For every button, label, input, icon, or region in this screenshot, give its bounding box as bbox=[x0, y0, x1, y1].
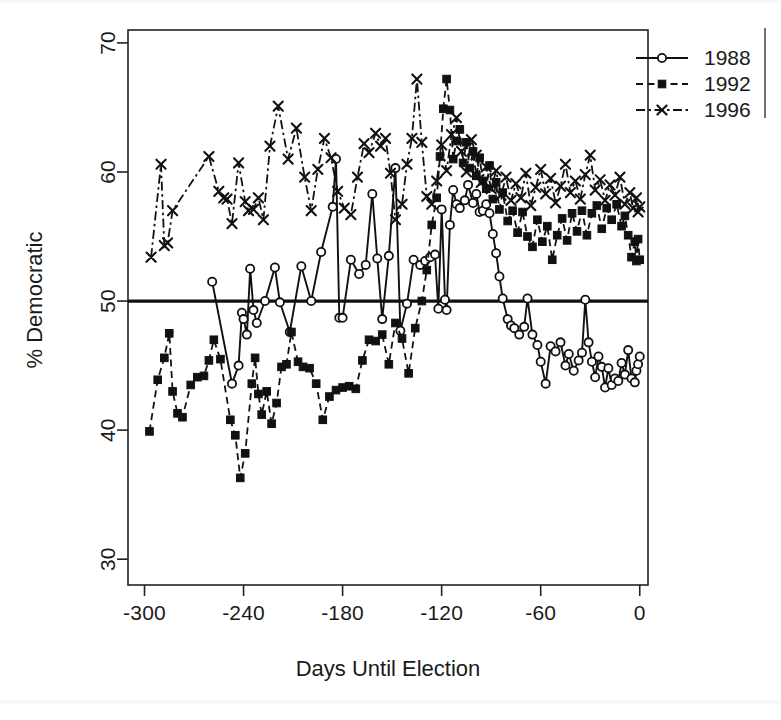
data-point-1992-68 bbox=[496, 206, 504, 214]
data-point-1992-80 bbox=[553, 231, 561, 239]
data-point-1992-43 bbox=[398, 335, 406, 343]
data-point-1992-45 bbox=[411, 324, 419, 332]
data-point-1992-75 bbox=[529, 243, 537, 251]
data-point-1988-42 bbox=[456, 204, 464, 212]
x-tick-label-0: 0 bbox=[634, 601, 646, 624]
data-point-1992-10 bbox=[205, 357, 213, 365]
data-point-1992-44 bbox=[405, 370, 413, 378]
data-point-1988-88 bbox=[631, 378, 639, 386]
x-tick-label--240: -240 bbox=[222, 601, 265, 624]
poll-trend-chart: 3040506070 -300-240-180-120-600 19881992… bbox=[0, 0, 781, 720]
data-point-1988-34 bbox=[431, 250, 439, 258]
y-tick-label-40: 40 bbox=[97, 418, 120, 442]
data-point-1988-50 bbox=[485, 209, 493, 217]
data-point-1988-7 bbox=[249, 306, 257, 314]
data-point-1992-91 bbox=[608, 216, 616, 224]
data-point-1988-80 bbox=[604, 364, 612, 372]
data-point-1988-39 bbox=[446, 221, 454, 229]
data-point-1992-16 bbox=[241, 450, 249, 458]
x-axis-title: Days Until Election bbox=[296, 656, 481, 681]
data-point-1988-37 bbox=[441, 296, 449, 304]
data-point-1988-13 bbox=[297, 262, 305, 270]
legend-marker-1992 bbox=[658, 80, 666, 88]
data-point-1992-20 bbox=[258, 411, 266, 419]
data-point-1988-84 bbox=[617, 359, 625, 367]
y-tick-label-70: 70 bbox=[97, 31, 120, 55]
data-point-1992-76 bbox=[534, 216, 542, 224]
data-point-1992-9 bbox=[200, 372, 208, 380]
data-point-1992-40 bbox=[378, 331, 386, 339]
data-point-1988-14 bbox=[307, 297, 315, 305]
data-point-1988-69 bbox=[565, 350, 573, 358]
data-point-1988-70 bbox=[570, 367, 578, 375]
data-point-1988-60 bbox=[523, 294, 531, 302]
legend-marker-1988 bbox=[658, 54, 666, 62]
data-point-1992-42 bbox=[392, 319, 400, 327]
data-point-1992-22 bbox=[268, 420, 276, 428]
data-point-1988-90 bbox=[634, 360, 642, 368]
data-point-1988-40 bbox=[449, 186, 457, 194]
data-point-1992-30 bbox=[312, 380, 320, 388]
data-point-1988-43 bbox=[461, 196, 469, 204]
data-point-1992-29 bbox=[306, 364, 314, 372]
data-point-1988-77 bbox=[594, 352, 602, 360]
data-point-1992-83 bbox=[568, 209, 576, 217]
data-point-1988-67 bbox=[556, 338, 564, 346]
legend-label-1992: 1992 bbox=[704, 72, 751, 95]
data-point-1988-36 bbox=[438, 205, 446, 213]
legend-label-1996: 1996 bbox=[704, 98, 751, 121]
data-point-1988-5 bbox=[243, 331, 251, 339]
y-axis-title: % Democratic bbox=[22, 232, 47, 369]
figure-container: 3040506070 -300-240-180-120-600 19881992… bbox=[0, 0, 781, 720]
data-point-1988-9 bbox=[261, 297, 269, 305]
data-point-1992-41 bbox=[385, 360, 393, 368]
data-point-1988-22 bbox=[362, 261, 370, 269]
data-point-1988-16 bbox=[329, 203, 337, 211]
data-point-1992-7 bbox=[187, 381, 195, 389]
data-point-1992-12 bbox=[217, 355, 225, 363]
data-point-1988-86 bbox=[624, 346, 632, 354]
data-point-1992-94 bbox=[621, 212, 629, 220]
data-point-1988-64 bbox=[542, 380, 550, 388]
data-point-1992-2 bbox=[161, 354, 169, 362]
data-point-1988-74 bbox=[584, 338, 592, 346]
data-point-1988-4 bbox=[239, 315, 247, 323]
data-point-1988-61 bbox=[528, 331, 536, 339]
data-point-1988-52 bbox=[492, 249, 500, 257]
data-point-1992-87 bbox=[588, 209, 596, 217]
data-point-1992-3 bbox=[165, 330, 173, 338]
y-tick-label-60: 60 bbox=[97, 160, 120, 184]
data-point-1992-36 bbox=[352, 385, 360, 393]
data-point-1992-88 bbox=[593, 202, 601, 210]
data-point-1992-14 bbox=[232, 431, 240, 439]
data-point-1988-25 bbox=[378, 315, 386, 323]
data-point-1988-8 bbox=[253, 319, 261, 327]
data-point-1988-10 bbox=[271, 263, 279, 271]
data-point-1988-54 bbox=[499, 294, 507, 302]
data-point-1988-29 bbox=[403, 300, 411, 308]
data-point-1992-82 bbox=[563, 237, 571, 245]
data-point-1992-71 bbox=[509, 207, 517, 215]
data-point-1988-46 bbox=[472, 190, 480, 198]
data-point-1988-15 bbox=[317, 248, 325, 256]
data-point-1992-31 bbox=[319, 416, 327, 424]
data-point-1992-93 bbox=[618, 222, 626, 230]
data-point-1992-72 bbox=[514, 229, 522, 237]
data-point-1992-99 bbox=[634, 235, 642, 243]
y-tick-label-30: 30 bbox=[97, 547, 120, 571]
y-tick-label-50: 50 bbox=[97, 289, 120, 313]
data-point-1992-19 bbox=[255, 390, 263, 398]
data-point-1992-52 bbox=[443, 75, 451, 83]
data-point-1992-77 bbox=[539, 238, 547, 246]
x-tick-label--300: -300 bbox=[123, 601, 166, 624]
data-point-1992-23 bbox=[273, 399, 281, 407]
data-point-1988-21 bbox=[355, 270, 363, 278]
data-point-1992-37 bbox=[359, 357, 367, 365]
data-point-1988-44 bbox=[464, 181, 472, 189]
data-point-1992-66 bbox=[489, 195, 497, 203]
data-point-1992-74 bbox=[524, 233, 532, 241]
data-point-1992-21 bbox=[263, 388, 271, 396]
data-point-1988-58 bbox=[515, 331, 523, 339]
data-point-1988-26 bbox=[385, 252, 393, 260]
data-point-1992-48 bbox=[428, 221, 436, 229]
